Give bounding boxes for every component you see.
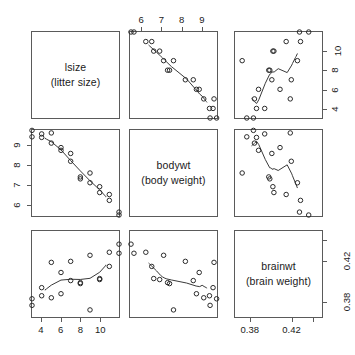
tick-label-bottom-brainwt-0: 0.38: [240, 324, 259, 335]
tick-label-right-lsize-1: 6: [329, 87, 340, 92]
diagonal-label-lsize: lsize (litter size): [32, 60, 119, 90]
scatterplot-matrix-figure: lsize (litter size) bodywt (body weight)…: [0, 0, 355, 355]
plot-area-brainwt-vs-lsize: [32, 231, 119, 317]
plot-area-lsize-vs-bodywt: [130, 32, 217, 118]
panel-bodywt-vs-lsize: [31, 129, 120, 217]
tick-label-bottom-lsize-1: 6: [58, 324, 63, 335]
tick-bottom-brainwt-0: [250, 318, 251, 322]
plot-area-bodywt-vs-lsize: [32, 130, 119, 216]
tick-right-brainwt-minor-1: [323, 240, 327, 241]
panel-lsize-vs-bodywt: [129, 31, 218, 119]
tick-label-top-bodywt-3: 9: [199, 14, 204, 25]
variable-name-brainwt: brainwt: [235, 259, 322, 274]
tick-label-top-bodywt-1: 7: [159, 14, 164, 25]
tick-label-bottom-lsize-2: 8: [78, 324, 83, 335]
panel-brainwt-vs-lsize: [31, 230, 120, 318]
tick-label-top-bodywt-2: 8: [179, 14, 184, 25]
plot-area-bodywt-vs-brainwt: [235, 130, 322, 216]
tick-label-right-brainwt-0: 0.38: [341, 293, 352, 312]
tick-label-right-lsize-3: 10: [332, 45, 343, 56]
panel-lsize-diagonal: lsize (litter size): [31, 31, 120, 119]
tick-label-left-bodywt-1: 7: [11, 182, 22, 187]
panel-lsize-vs-brainwt: [234, 31, 323, 119]
tick-right-lsize-1: [323, 90, 327, 91]
tick-bottom-lsize-3: [100, 318, 101, 322]
diagonal-label-bodywt: bodywt (body weight): [130, 158, 217, 188]
tick-right-lsize-3: [323, 51, 327, 52]
plot-area-lsize-vs-brainwt: [235, 32, 322, 118]
tick-label-left-bodywt-0: 6: [11, 202, 22, 207]
tick-label-left-bodywt-3: 9: [11, 142, 22, 147]
tick-label-right-brainwt-1: 0.42: [341, 252, 352, 271]
panel-bodywt-diagonal: bodywt (body weight): [129, 129, 218, 217]
variable-description-bodywt: (body weight): [130, 173, 217, 188]
tick-bottom-brainwt-minor-1: [313, 318, 314, 322]
tick-right-lsize-0: [323, 109, 327, 110]
tick-right-lsize-2: [323, 70, 327, 71]
variable-name-bodywt: bodywt: [130, 158, 217, 173]
tick-bottom-lsize-0: [41, 318, 42, 322]
tick-right-brainwt-1: [323, 261, 327, 262]
tick-label-right-lsize-2: 8: [329, 67, 340, 72]
tick-label-bottom-lsize-3: 10: [95, 324, 106, 335]
panel-brainwt-diagonal: brainwt (brain weight): [234, 230, 323, 318]
variable-description-lsize: (litter size): [32, 75, 119, 90]
panel-bodywt-vs-brainwt: [234, 129, 323, 217]
panel-brainwt-vs-bodywt: [129, 230, 218, 318]
plot-area-brainwt-vs-bodywt: [130, 231, 217, 317]
tick-right-brainwt-0: [323, 302, 327, 303]
variable-description-brainwt: (brain weight): [235, 274, 322, 289]
tick-bottom-lsize-2: [80, 318, 81, 322]
tick-bottom-brainwt-1: [292, 318, 293, 322]
tick-label-top-bodywt-0: 6: [138, 14, 143, 25]
tick-label-bottom-lsize-0: 4: [38, 324, 43, 335]
tick-label-left-bodywt-2: 8: [11, 162, 22, 167]
tick-label-right-lsize-0: 4: [329, 107, 340, 112]
tick-bottom-lsize-1: [61, 318, 62, 322]
tick-label-bottom-brainwt-1: 0.42: [282, 324, 301, 335]
variable-name-lsize: lsize: [32, 60, 119, 75]
diagonal-label-brainwt: brainwt (brain weight): [235, 259, 322, 289]
